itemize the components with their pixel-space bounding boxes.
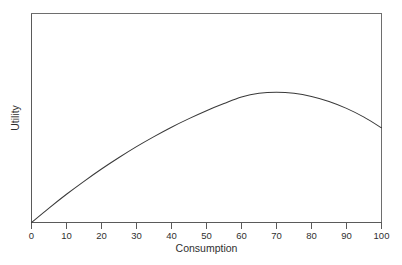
x-axis-title: Consumption <box>176 242 238 254</box>
x-tick-label-100: 100 <box>374 230 390 241</box>
x-tick-label-20: 20 <box>96 230 107 241</box>
x-tick-label-80: 80 <box>306 230 317 241</box>
x-tick-label-70: 70 <box>271 230 282 241</box>
x-tick-label-50: 50 <box>201 230 212 241</box>
x-tick-label-10: 10 <box>61 230 72 241</box>
x-tick-label-30: 30 <box>131 230 142 241</box>
x-tick-label-0: 0 <box>29 230 34 241</box>
chart-figure: 0 10 20 30 40 50 60 70 80 90 100 Consump… <box>0 0 402 265</box>
y-axis-title: Utility <box>9 104 21 130</box>
chart-background <box>0 0 402 265</box>
x-tick-label-40: 40 <box>166 230 177 241</box>
utility-consumption-chart: 0 10 20 30 40 50 60 70 80 90 100 Consump… <box>0 0 402 265</box>
x-tick-label-60: 60 <box>236 230 247 241</box>
x-tick-label-90: 90 <box>341 230 352 241</box>
